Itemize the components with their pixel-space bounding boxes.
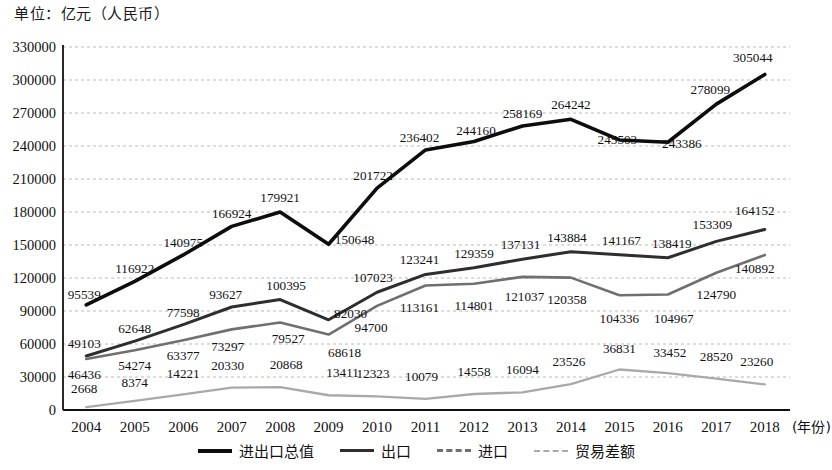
chart-plot-area: 3300003000002700002400002100001800001500… [0,0,832,440]
svg-text:2010: 2010 [362,419,392,435]
svg-text:13411: 13411 [326,365,358,380]
svg-text:140892: 140892 [735,261,775,276]
svg-text:2004: 2004 [71,419,102,435]
legend-label-balance: 贸易差额 [575,440,635,461]
svg-text:10079: 10079 [405,369,438,384]
svg-text:141167: 141167 [602,233,641,248]
svg-text:121037: 121037 [505,289,545,304]
svg-text:(年份): (年份) [792,419,831,435]
svg-text:2012: 2012 [459,419,489,435]
svg-text:143884: 143884 [547,230,587,245]
svg-text:60000: 60000 [20,336,56,352]
svg-text:2018: 2018 [750,419,780,435]
legend-swatch-import-icon [437,449,471,452]
svg-text:236402: 236402 [400,130,440,145]
svg-text:36831: 36831 [603,341,636,356]
svg-text:23526: 23526 [552,354,585,369]
svg-text:62648: 62648 [118,321,151,336]
svg-text:116922: 116922 [115,261,154,276]
svg-text:140975: 140975 [163,235,203,250]
legend-swatch-balance-icon [534,450,568,452]
svg-text:137131: 137131 [501,237,541,252]
svg-text:129359: 129359 [454,246,494,261]
svg-text:82030: 82030 [334,306,367,321]
svg-text:23260: 23260 [740,354,773,369]
svg-text:2011: 2011 [411,419,440,435]
svg-text:73297: 73297 [211,339,244,354]
svg-text:30000: 30000 [20,369,56,385]
svg-text:14558: 14558 [458,364,491,379]
svg-text:90000: 90000 [20,303,56,319]
svg-text:2015: 2015 [604,419,634,435]
svg-text:2668: 2668 [71,381,98,396]
svg-text:210000: 210000 [13,171,57,187]
svg-text:300000: 300000 [13,72,57,88]
legend-label-total: 进出口总值 [239,440,314,461]
svg-text:2013: 2013 [507,419,537,435]
svg-text:278099: 278099 [691,82,731,97]
svg-text:2006: 2006 [168,419,199,435]
svg-text:28520: 28520 [700,349,733,364]
svg-text:2014: 2014 [556,419,587,435]
svg-text:114801: 114801 [454,298,493,313]
svg-text:244160: 244160 [456,123,496,138]
svg-text:150648: 150648 [335,232,375,247]
legend-swatch-export-icon [340,449,374,452]
legend-label-export: 出口 [381,440,411,461]
legend-item-balance[interactable]: 贸易差额 [534,440,635,461]
svg-text:95539: 95539 [68,287,101,302]
svg-text:63377: 63377 [167,348,200,363]
svg-text:113161: 113161 [400,300,439,315]
svg-text:243386: 243386 [662,136,702,151]
svg-text:77598: 77598 [167,305,200,320]
svg-text:2005: 2005 [120,419,150,435]
svg-text:33452: 33452 [653,345,686,360]
svg-text:107023: 107023 [353,270,393,285]
svg-text:164152: 164152 [735,203,775,218]
svg-text:104967: 104967 [654,311,694,326]
svg-text:104336: 104336 [600,311,640,326]
svg-text:79527: 79527 [272,331,305,346]
svg-text:123241: 123241 [400,252,440,267]
svg-text:8374: 8374 [122,375,149,390]
svg-text:2008: 2008 [265,419,295,435]
svg-text:49103: 49103 [68,336,101,351]
svg-text:94700: 94700 [355,320,388,335]
svg-text:264242: 264242 [551,97,591,112]
svg-text:179921: 179921 [260,190,300,205]
svg-text:240000: 240000 [13,138,57,154]
svg-text:120000: 120000 [13,270,57,286]
svg-text:54274: 54274 [118,358,151,373]
svg-text:150000: 150000 [13,237,57,253]
legend-label-import: 进口 [478,440,508,461]
x-axis-ticks: 2004200520062007200820092010201120122013… [71,419,831,435]
svg-text:330000: 330000 [13,39,57,55]
svg-text:124790: 124790 [697,287,737,302]
legend-swatch-total-icon [198,449,232,453]
svg-text:14221: 14221 [167,366,200,381]
svg-text:16094: 16094 [506,362,539,377]
svg-text:270000: 270000 [13,105,57,121]
svg-text:305044: 305044 [733,50,773,65]
svg-text:46436: 46436 [68,367,101,382]
svg-text:20330: 20330 [211,358,244,373]
legend-item-import[interactable]: 进口 [437,440,508,461]
legend-item-total[interactable]: 进出口总值 [198,440,314,461]
svg-text:2016: 2016 [653,419,684,435]
svg-text:0: 0 [49,402,56,418]
svg-text:2009: 2009 [314,419,344,435]
legend-item-export[interactable]: 出口 [340,440,411,461]
svg-text:166924: 166924 [212,206,252,221]
svg-text:201722: 201722 [353,168,393,183]
svg-text:180000: 180000 [13,204,57,220]
y-axis-ticks: 3300003000002700002400002100001800001500… [13,39,57,418]
chart-container: 单位：亿元（人民币） 33000030000027000024000021000… [0,0,832,470]
svg-text:93627: 93627 [209,287,242,302]
svg-text:138419: 138419 [652,236,692,251]
svg-text:2007: 2007 [217,419,248,435]
svg-text:68618: 68618 [328,345,361,360]
svg-text:245503: 245503 [598,132,638,147]
svg-text:120358: 120358 [547,292,587,307]
svg-text:2017: 2017 [701,419,732,435]
svg-text:153309: 153309 [693,217,733,232]
